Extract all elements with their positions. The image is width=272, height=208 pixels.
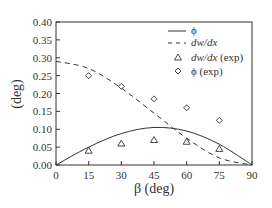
y-tick-label: 0.10: [33, 123, 53, 135]
diamond-marker-icon: [184, 105, 190, 111]
legend-diamond-icon: [175, 68, 181, 74]
y-axis-title: (deg): [9, 79, 25, 109]
y-tick-label: 0.00: [33, 159, 53, 171]
triangle-marker-icon: [183, 138, 190, 144]
x-axis-title: β (deg): [134, 181, 174, 197]
x-tick-label: 15: [83, 169, 95, 181]
y-tick-label: 0.05: [33, 141, 53, 153]
triangle-marker-icon: [216, 145, 223, 151]
phi-solid-curve: [56, 127, 252, 165]
y-tick-label: 0.20: [33, 88, 53, 100]
diamond-marker-icon: [151, 96, 157, 102]
x-tick-label: 75: [214, 169, 226, 181]
y-tick-label: 0.40: [33, 16, 53, 28]
diamond-marker-icon: [216, 117, 222, 123]
x-tick-label: 45: [149, 169, 161, 181]
y-tick-label: 0.30: [33, 52, 53, 64]
diamond-marker-icon: [118, 83, 124, 89]
y-tick-label: 0.15: [33, 105, 53, 117]
x-tick-label: 60: [181, 169, 193, 181]
x-tick-label: 0: [53, 169, 59, 181]
y-tick-label: 0.25: [33, 70, 53, 82]
plot-frame: [56, 22, 252, 165]
x-tick-label: 90: [247, 169, 259, 181]
triangle-marker-icon: [118, 140, 125, 146]
legend-triangle-icon: [175, 54, 182, 60]
chart: 0.000.050.100.150.200.250.300.350.40 015…: [0, 0, 272, 208]
legend-label-dwdx: dw/dx: [191, 36, 217, 48]
legend-label-dwdx-exp: dw/dx (exp): [191, 51, 244, 64]
y-tick-label: 0.35: [33, 34, 53, 46]
legend: ϕ dw/dx dw/dx (exp) ϕ (exp): [168, 24, 244, 78]
triangle-marker-icon: [151, 136, 158, 142]
legend-label-phi-exp: ϕ (exp): [191, 65, 223, 78]
legend-label-phi: ϕ: [191, 24, 197, 36]
diamond-marker-icon: [86, 73, 92, 79]
x-axis-ticks: 0153045607590: [53, 161, 258, 181]
x-tick-label: 30: [116, 169, 128, 181]
